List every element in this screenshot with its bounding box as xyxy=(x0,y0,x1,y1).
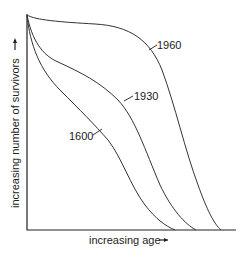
label-1930: 1930 xyxy=(134,90,158,102)
curve-1960 xyxy=(27,15,221,230)
x-axis-arrowhead xyxy=(164,238,168,242)
y-axis-label: increasing number of survivors xyxy=(9,58,21,208)
label-1960: 1960 xyxy=(157,39,181,51)
y-axis-arrowhead xyxy=(13,38,17,43)
axes xyxy=(27,14,236,230)
x-axis-label: increasing age xyxy=(89,234,161,246)
label-leader-1930 xyxy=(124,96,133,101)
survivorship-chart: 1960 1930 1600 increasing age increasing… xyxy=(0,0,249,257)
label-leader-1960 xyxy=(149,45,157,50)
label-1600: 1600 xyxy=(69,130,93,142)
